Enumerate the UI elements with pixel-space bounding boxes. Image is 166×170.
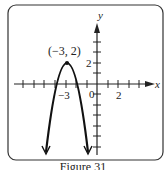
x-axis-arrow-icon	[145, 81, 155, 87]
origin-label: 0	[89, 88, 95, 100]
parabola-curve	[46, 63, 88, 152]
graph: (−3, 2) y x 2 −3 0 2	[0, 0, 166, 170]
figure-caption: Figure 31	[0, 160, 166, 170]
vertex-label: (−3, 2)	[48, 44, 81, 58]
y-axis-arrow-icon	[94, 23, 100, 33]
y-axis-label: y	[97, 9, 103, 21]
x-tick-label-2: 2	[116, 89, 122, 101]
x-axis-label: x	[154, 78, 160, 90]
x-tick-label-neg3: −3	[58, 89, 70, 101]
y-tick-label-2: 2	[86, 57, 92, 69]
vertex-point	[65, 61, 69, 65]
